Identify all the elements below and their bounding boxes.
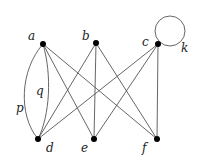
label-b: b [82, 29, 90, 43]
node-c [155, 41, 161, 47]
edge-b-e [94, 43, 96, 139]
label-k: k [181, 41, 188, 55]
node-f [154, 136, 160, 142]
node-b [93, 40, 99, 46]
node-d [35, 136, 41, 142]
node-e [91, 136, 97, 142]
node-a [40, 41, 46, 47]
label-q: q [36, 84, 44, 98]
edge-c-f [157, 44, 158, 139]
label-e: e [81, 141, 88, 155]
label-f: f [141, 141, 149, 155]
label-a: a [28, 29, 35, 43]
graph-diagram: a b c d e f p q k [0, 0, 199, 161]
label-p: p [16, 101, 24, 115]
label-c: c [142, 35, 149, 49]
label-d: d [46, 141, 54, 155]
edge-b-d [38, 43, 96, 139]
